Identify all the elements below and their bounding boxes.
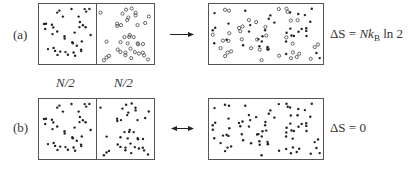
filled-particle [147,153,149,155]
filled-particle [74,150,76,152]
double-arrow-icon [171,126,194,131]
filled-particle [278,150,280,152]
filled-particle [134,107,136,109]
filled-particle [258,45,260,47]
filled-particle [301,123,303,125]
filled-particle [258,140,260,142]
filled-particle [134,109,136,111]
filled-particle [269,14,271,16]
open-particle [137,52,140,55]
filled-particle [133,131,135,133]
open-particle [129,47,132,50]
filled-particle [54,50,56,52]
half-label-left: N/2 [56,75,75,91]
filled-particle [58,104,60,106]
open-particle [119,50,122,53]
filled-particle [297,13,299,15]
filled-particle [226,146,228,148]
filled-particle [298,148,300,150]
filled-particle [85,10,87,12]
filled-particle [319,152,321,154]
filled-particle [129,142,131,144]
filled-particle [212,29,214,31]
filled-particle [301,28,303,30]
open-particle [289,57,292,60]
filled-particle [260,154,262,156]
open-particle [125,8,128,11]
filled-particle [244,10,246,12]
filled-particle [305,27,307,29]
filled-particle [266,141,268,143]
filled-particle [64,146,66,148]
filled-particle [250,142,252,144]
filled-particle [52,142,54,144]
open-particle [219,47,222,50]
filled-particle [289,122,291,124]
filled-particle [289,106,291,108]
filled-particle [309,21,311,23]
arrow-right-icon [170,32,194,37]
filled-particle [261,135,263,137]
filled-particle [126,114,128,116]
panel-a-partitioned-box [39,4,155,65]
filled-particle [314,141,316,143]
open-particle [221,39,224,42]
open-particle [126,42,129,45]
filled-particle [74,55,76,57]
filled-particle [214,27,216,29]
filled-particle [259,144,261,146]
subscript-b: B [374,33,380,43]
open-particle [133,51,136,54]
open-particle [224,55,227,58]
filled-particle [116,120,118,122]
filled-particle [54,145,56,147]
open-particle [247,19,250,22]
panel-a-mixed-box [209,4,324,65]
filled-particle [290,152,292,154]
filled-particle [142,147,144,149]
filled-particle [242,44,244,46]
filled-particle [244,105,246,107]
filled-particle [261,35,263,37]
filled-particle [47,143,49,145]
filled-particle [297,108,299,110]
open-particle [291,51,294,54]
filled-particle [121,107,123,109]
open-particle [130,7,133,10]
open-particle [119,24,122,27]
open-particle [265,34,268,37]
filled-particle [268,113,270,115]
filled-particle [266,46,268,48]
filled-particle [228,105,230,107]
open-particle [264,25,267,28]
filled-particle [136,119,138,121]
filled-particle [88,8,90,10]
filled-particle [225,39,227,41]
filled-particle [127,137,129,139]
filled-particle [76,45,78,47]
filled-particle [105,135,107,137]
open-particle [119,41,122,44]
filled-particle [241,120,243,122]
filled-particle [268,18,270,20]
filled-particle [225,134,227,136]
open-particle [289,19,292,22]
filled-particle [56,54,58,56]
filled-particle [78,121,80,123]
filled-particle [117,143,119,145]
open-particle [298,52,301,55]
filled-particle [228,127,230,129]
open-particle [121,12,124,15]
filled-particle [70,8,72,10]
filled-particle [290,114,292,116]
open-particle [241,25,244,28]
filled-particle [52,26,54,28]
filled-particle [119,146,121,148]
filled-particle [51,128,53,130]
filled-particle [119,136,121,138]
filled-particle [305,130,307,132]
filled-particle [59,50,61,52]
open-particle [240,38,243,41]
filled-particle [285,131,287,133]
filled-particle [212,124,214,126]
